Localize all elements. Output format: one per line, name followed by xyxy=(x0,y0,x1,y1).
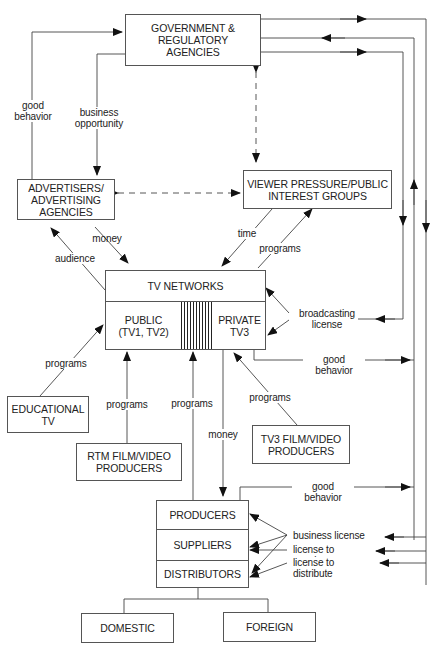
tv-public-cell: PUBLIC (TV1, TV2) xyxy=(106,302,181,349)
domestic-node: DOMESTIC xyxy=(81,613,174,643)
industry-node: PRODUCERS SUPPLIERS DISTRIBUTORS xyxy=(156,500,249,588)
distributors-cell: DISTRIBUTORS xyxy=(157,561,248,587)
label-good-behavior-producers: good behavior xyxy=(292,481,354,503)
label-programs-rtm: programs xyxy=(106,399,148,410)
label-business-opportunity: business opportunity xyxy=(74,107,124,129)
rtm-producers-node: RTM FILM/VIDEO PRODUCERS xyxy=(76,443,182,481)
advertisers-node: ADVERTISERS/ ADVERTISING AGENCIES xyxy=(17,179,115,220)
tv-private-cell: PRIVATE TV3 xyxy=(214,302,265,349)
label-programs-educational: programs xyxy=(45,358,87,369)
educational-tv-node: EDUCATIONAL TV xyxy=(7,396,89,433)
label-money-producers: money xyxy=(208,429,238,440)
shared-stripe-region xyxy=(181,302,214,349)
government-node: GOVERNMENT & REGULATORY AGENCIES xyxy=(125,14,261,66)
label-good-behavior-advertisers: good behavior xyxy=(13,100,53,122)
foreign-node: FOREIGN xyxy=(223,612,316,642)
label-time: time xyxy=(236,228,258,239)
label-broadcasting-license: broadcasting license xyxy=(296,308,358,330)
label-business-license: business license xyxy=(293,530,365,541)
viewer-groups-node: VIEWER PRESSURE/PUBLIC INTEREST GROUPS xyxy=(243,170,392,209)
label-programs-viewer: programs xyxy=(259,243,301,254)
label-license-to-distribute: license to distribute xyxy=(293,557,375,579)
tv-networks-node: TV NETWORKS PUBLIC (TV1, TV2) PRIVATE TV… xyxy=(105,270,266,350)
label-programs-main: programs xyxy=(171,398,213,409)
label-money-advertisers: money xyxy=(90,233,124,244)
label-programs-tv3: programs xyxy=(249,392,291,403)
label-audience: audience xyxy=(54,253,96,264)
producers-cell: PRODUCERS xyxy=(157,501,248,530)
suppliers-cell: SUPPLIERS xyxy=(157,530,248,561)
tv3-producers-node: TV3 FILM/VIDEO PRODUCERS xyxy=(252,425,350,464)
label-good-behavior-tv: good behavior xyxy=(303,354,365,376)
tv-networks-title: TV NETWORKS xyxy=(106,271,265,302)
